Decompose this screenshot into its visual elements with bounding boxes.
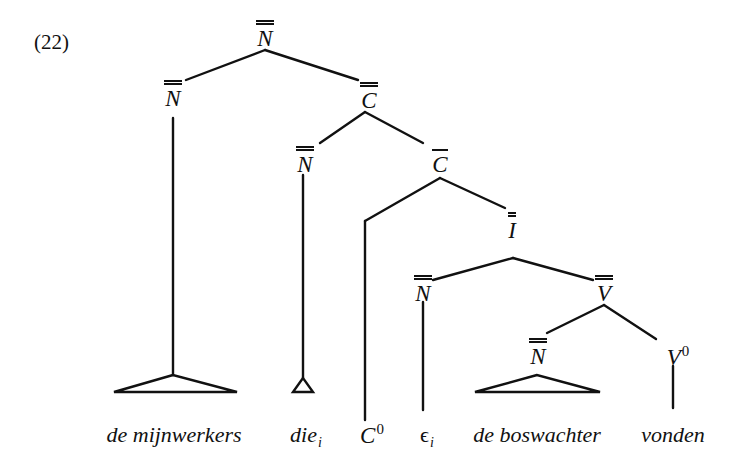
double-bar [529, 338, 547, 343]
single-bar [432, 149, 448, 151]
double-bar [296, 146, 314, 151]
node-c-bar: C [432, 149, 448, 176]
double-bar [164, 80, 182, 85]
tree-edges [0, 0, 749, 453]
double-bar [508, 212, 516, 217]
node-n-object: N [529, 338, 547, 368]
node-i-double-bar: I [508, 212, 516, 242]
node-n-relative: N [296, 146, 314, 176]
leaf-de-mijnwerkers: de mijnwerkers [106, 424, 241, 446]
node-n-left: N [164, 80, 182, 110]
double-bar [414, 275, 432, 280]
double-bar [360, 82, 378, 87]
node-c-double-bar: C [360, 82, 378, 112]
node-c-zero: C0 [360, 424, 384, 447]
double-bar [595, 275, 613, 280]
example-number: (22) [34, 30, 69, 55]
node-root-n: N [256, 20, 274, 50]
syntax-tree-diagram: (22) N N C N C I N V N [0, 0, 749, 453]
node-v-zero: V0 [667, 346, 690, 369]
leaf-trace-epsilon: ϵi [420, 424, 434, 446]
leaf-die: diei [290, 424, 322, 446]
node-v-double-bar: V [595, 275, 613, 305]
node-n-trace: N [414, 275, 432, 305]
leaf-de-boswachter: de boswachter [473, 424, 601, 446]
leaf-vonden: vonden [641, 424, 705, 446]
double-bar [256, 20, 274, 25]
